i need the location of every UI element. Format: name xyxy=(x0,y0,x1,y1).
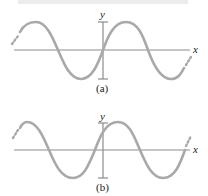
y-axis-label-a: y xyxy=(100,8,105,20)
continuation-dots-right-b xyxy=(186,136,191,146)
caption-b: (b) xyxy=(96,181,109,193)
continuation-dots-right-a xyxy=(186,57,191,65)
y-axis-label-b: y xyxy=(100,110,105,122)
panel-b xyxy=(13,122,191,178)
x-axis-label-a: x xyxy=(193,43,198,55)
continuation-dots-left-a xyxy=(12,36,18,44)
wave-diagram xyxy=(0,0,208,196)
continuation-dots-left-b xyxy=(13,130,18,138)
caption-a: (a) xyxy=(96,82,108,94)
x-axis-label-b: x xyxy=(193,143,198,155)
panel-a xyxy=(12,22,191,79)
